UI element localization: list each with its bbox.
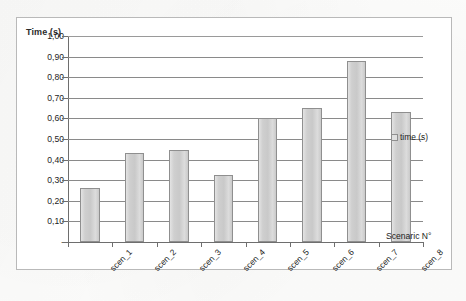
y-axis-tick-label: 0,50 [24, 134, 64, 144]
bar [80, 188, 100, 242]
x-axis-tick-label: scen_4 [241, 247, 267, 273]
y-axis-tick-label: 0,30 [24, 175, 64, 185]
x-axis-tick-label: scen_5 [285, 247, 311, 273]
bars-layer [68, 36, 423, 242]
y-axis-tick-label: 0,60 [24, 113, 64, 123]
category-axis-line [68, 242, 424, 243]
legend-label: time (s) [400, 132, 428, 142]
x-axis-tick-label: scen_2 [152, 247, 178, 273]
y-axis-tick-label: 1,00 [24, 31, 64, 41]
chart-legend: time (s) [391, 132, 428, 142]
x-axis-tick-label: scen_7 [374, 247, 400, 273]
y-axis-tick-label: 0,80 [24, 72, 64, 82]
y-axis-tick-label: 0,90 [24, 52, 64, 62]
y-axis-tick-labels: -0,100,200,300,400,500,600,700,800,901,0… [24, 34, 64, 246]
x-axis-title: Scenaric N° [386, 231, 431, 241]
bar [125, 153, 145, 242]
bar [214, 175, 234, 242]
x-axis-tick-labels: scen_1scen_2scen_3scen_4scen_5scen_6scen… [68, 247, 424, 291]
legend-square-icon [391, 134, 398, 141]
x-axis-tick-label: scen_6 [330, 247, 356, 273]
x-axis-tick-label: scen_1 [108, 247, 134, 273]
x-axis-tick-label: scen_3 [197, 247, 223, 273]
y-axis-tick-label: 0,70 [24, 93, 64, 103]
bar [302, 108, 322, 242]
bar [258, 118, 278, 242]
y-axis-tick-label: 0,40 [24, 155, 64, 165]
y-axis-tick-label: - [24, 237, 64, 247]
bar [347, 61, 367, 242]
y-axis-tick-label: 0,10 [24, 216, 64, 226]
y-axis-tick-label: 0,20 [24, 196, 64, 206]
bar [169, 150, 189, 242]
plot-area [68, 36, 423, 242]
